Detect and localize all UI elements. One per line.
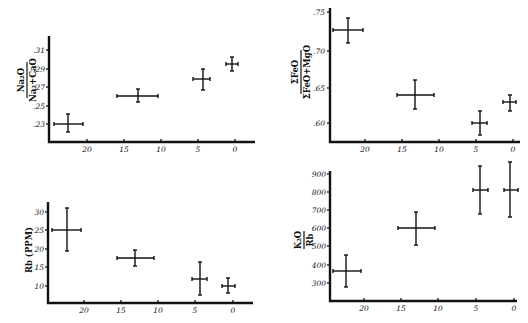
y-tick-label: 20: [33, 245, 44, 254]
data-point: [397, 80, 434, 109]
y-tick-label: 300: [312, 279, 327, 288]
x-tick-label: 10: [433, 304, 443, 313]
data-point: [503, 95, 516, 111]
y-tick-label: 800: [312, 188, 327, 197]
x-tick-label: 0: [231, 306, 236, 315]
data-point: [117, 89, 158, 102]
data-point: [398, 212, 435, 245]
y-axis-label: Na₂O Na₂+CaO: [16, 58, 38, 102]
x-tick-label: 20: [358, 304, 369, 313]
x-tick-label: 15: [116, 306, 126, 315]
figure: .31 .29 .27 .25 .23 20 15 10 5 0 Na₂O Na…: [0, 0, 528, 323]
x-tick-label: 10: [434, 145, 444, 154]
x-tick-label: 20: [359, 145, 370, 154]
x-tick-label: 15: [396, 304, 406, 313]
data-point: [52, 208, 81, 251]
y-tick-label: 10: [34, 282, 44, 291]
svg-text:Rb: Rb: [305, 233, 315, 246]
data-point: [117, 250, 154, 266]
y-tick-label: .70: [313, 47, 325, 56]
data-point: [473, 166, 488, 214]
y-tick-label: 600: [312, 224, 327, 233]
x-tick-label: 0: [233, 145, 238, 154]
panel-k2o-rb: 900 800 700 600 500 400 300 20 15 10 5 0…: [293, 162, 518, 313]
x-tick-label: 5: [193, 306, 198, 315]
panel-na2o-ratio: .31 .29 .27 .25 .23 20 15 10 5 0 Na₂O Na…: [16, 36, 255, 154]
y-tick-label: 700: [312, 206, 327, 215]
svg-text:Na₂+CaO: Na₂+CaO: [28, 58, 38, 102]
x-tick-label: 15: [397, 145, 407, 154]
x-tick-label: 5: [196, 145, 201, 154]
data-point: [333, 18, 363, 43]
x-tick-label: 10: [153, 306, 163, 315]
data-point: [472, 111, 487, 135]
data-point: [54, 114, 83, 132]
data-point: [193, 69, 210, 90]
y-axis-label: Rb (PPM): [24, 227, 34, 273]
y-tick-label: 25: [33, 226, 44, 235]
y-tick-label: 30: [34, 208, 44, 217]
axes: [49, 36, 255, 142]
axes: [330, 8, 520, 142]
data-point: [222, 278, 235, 293]
svg-text:ΣFeO+MgO: ΣFeO+MgO: [302, 44, 312, 99]
panel-rb: 30 25 20 15 10 20 15 10 5 0 Rb (PPM): [24, 202, 253, 315]
x-tick-label: 5: [474, 304, 479, 313]
axes: [330, 171, 517, 301]
y-tick-label: .75: [313, 8, 325, 17]
y-tick-label: .65: [313, 84, 325, 93]
y-tick-label: 15: [34, 263, 44, 272]
x-tick-label: 5: [474, 145, 479, 154]
svg-text:Na₂O: Na₂O: [16, 67, 26, 92]
x-tick-label: 0: [511, 145, 516, 154]
data-point: [333, 255, 361, 287]
y-axis-label: ΣFeO ΣFeO+MgO: [290, 44, 312, 99]
x-tick-label: 0: [512, 304, 517, 313]
x-tick-label: 20: [78, 306, 89, 315]
y-axis-label: K₂O Rb: [293, 230, 315, 249]
y-tick-label: 900: [312, 170, 327, 179]
panel-feo-ratio: .75 .70 .65 .60 20 15 10 5 0 ΣFeO ΣFeO+M…: [290, 8, 520, 154]
data-point: [192, 262, 207, 295]
y-tick-label: .23: [33, 120, 45, 129]
svg-text:K₂O: K₂O: [293, 230, 303, 249]
y-tick-label: .60: [313, 119, 325, 128]
y-tick-label: 400: [311, 261, 327, 270]
data-point: [226, 57, 238, 71]
x-tick-label: 20: [81, 145, 92, 154]
y-tick-label: .25: [33, 102, 45, 111]
svg-text:ΣFeO: ΣFeO: [290, 59, 300, 84]
data-point: [504, 162, 518, 217]
x-tick-label: 10: [156, 145, 166, 154]
x-tick-label: 15: [119, 145, 129, 154]
y-tick-label: .31: [33, 46, 45, 55]
